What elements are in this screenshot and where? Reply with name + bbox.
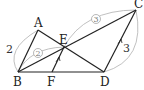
ratio-label-EC: 3 bbox=[93, 15, 98, 24]
ratio-label-BE: 2 bbox=[35, 49, 40, 58]
point-label-A: A bbox=[33, 16, 43, 30]
geometry-diagram: 2 3 2 3 A B C D E F bbox=[0, 0, 144, 90]
point-label-C: C bbox=[134, 0, 143, 11]
point-label-F: F bbox=[47, 75, 55, 89]
point-label-E: E bbox=[59, 33, 68, 47]
length-label-CD: 3 bbox=[123, 42, 130, 55]
length-label-AB: 2 bbox=[6, 43, 13, 56]
point-label-B: B bbox=[13, 75, 22, 89]
point-label-D: D bbox=[100, 75, 110, 89]
